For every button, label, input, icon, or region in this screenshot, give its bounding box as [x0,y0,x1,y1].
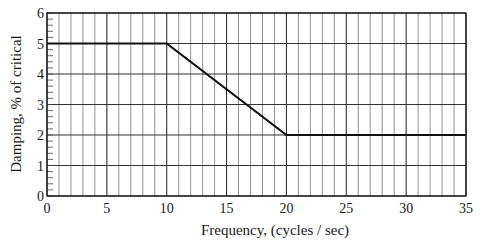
x-tick-label: 5 [103,201,110,216]
x-tick-labels: 05101520253035 [44,201,474,216]
y-minor-ticks [47,13,53,196]
damping-chart: 05101520253035 0123456 Frequency, (cycle… [0,0,482,246]
y-tick-label: 3 [37,98,44,113]
x-tick-label: 15 [220,201,234,216]
y-tick-label: 6 [37,6,44,21]
x-tick-label: 30 [399,201,413,216]
x-tick-label: 25 [339,201,353,216]
y-tick-label: 1 [37,159,44,174]
x-tick-label: 10 [160,201,174,216]
y-tick-label: 4 [37,67,44,82]
y-tick-labels: 0123456 [37,6,44,204]
y-tick-label: 5 [37,37,44,52]
x-tick-label: 20 [279,201,293,216]
y-axis-label: Damping, % of critical [8,35,24,172]
y-tick-label: 0 [37,189,44,204]
x-tick-label: 0 [44,201,51,216]
x-axis-label: Frequency, (cycles / sec) [201,222,349,239]
damping-series-line [47,44,466,136]
grid [47,13,466,196]
x-tick-label: 35 [459,201,473,216]
y-tick-label: 2 [37,128,44,143]
